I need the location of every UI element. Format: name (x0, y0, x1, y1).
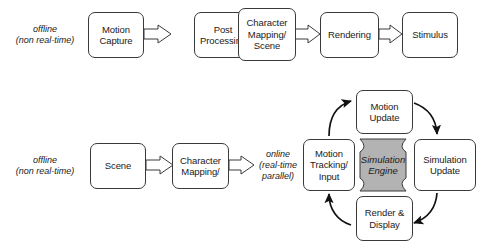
cycle-arrow-simulation-update-to-render-display (414, 193, 437, 223)
node-character-mapping-scene[interactable]: Character Mapping/ Scene (238, 8, 296, 61)
online-label: online (real-time parallel) (250, 149, 306, 182)
offline-label-top: offline (non real-time) (6, 24, 84, 46)
cycle-arrow-tracking-to-motion-update (329, 101, 351, 136)
node-motion-tracking-input[interactable]: Motion Tracking/ Input (303, 139, 355, 191)
block-arrow-character-mapping-scene-to-rendering (295, 25, 320, 43)
node-character-mapping[interactable]: Character Mapping/ (172, 143, 229, 189)
diagram-canvas: offline (non real-time) Motion Capture P… (0, 0, 487, 250)
node-motion-capture[interactable]: Motion Capture (88, 12, 144, 58)
block-arrow-scene-to-character-mapping (146, 156, 173, 174)
node-render-display[interactable]: Render & Display (356, 196, 413, 241)
simulation-engine-label: Simulation Engine (361, 154, 405, 177)
node-scene[interactable]: Scene (90, 143, 146, 189)
block-arrow-rendering-to-stimulus (379, 25, 402, 43)
cycle-arrow-motion-update-to-simulation-update (414, 103, 437, 134)
node-rendering[interactable]: Rendering (320, 12, 379, 58)
node-simulation-update[interactable]: Simulation Update (414, 139, 476, 191)
cycle-arrow-render-display-to-tracking (329, 194, 351, 225)
node-motion-update[interactable]: Motion Update (356, 90, 413, 134)
offline-label-bottom: offline (non real-time) (6, 155, 84, 177)
block-arrow-motion-capture-to-post-processing (144, 25, 171, 43)
node-simulation-engine[interactable]: Simulation Engine (352, 138, 414, 192)
node-stimulus[interactable]: Stimulus (402, 12, 458, 58)
